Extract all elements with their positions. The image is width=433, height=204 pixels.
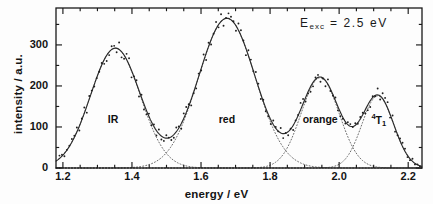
data-point	[404, 148, 406, 150]
data-point	[270, 123, 272, 125]
data-point	[233, 20, 235, 22]
data-point	[205, 59, 207, 61]
data-point	[141, 94, 143, 96]
x-tick-label: 2.0	[319, 170, 359, 182]
data-point	[76, 127, 78, 129]
data-point	[402, 142, 404, 144]
data-point	[126, 53, 128, 55]
data-point	[332, 95, 334, 97]
data-point	[277, 130, 279, 132]
data-point	[195, 87, 197, 89]
data-point	[247, 49, 249, 51]
data-point	[238, 23, 240, 25]
peak-label-4t1: 4T1	[349, 112, 409, 128]
data-point	[369, 106, 371, 108]
data-point	[220, 13, 222, 15]
data-point	[111, 45, 113, 47]
annotation-subscript: exc	[310, 22, 325, 31]
data-point	[260, 98, 262, 100]
data-point	[150, 124, 152, 126]
data-point	[106, 60, 108, 62]
x-tick-label: 1.8	[250, 170, 290, 182]
data-point	[68, 145, 70, 147]
x-tick-label: 2.2	[388, 170, 428, 182]
data-point	[193, 92, 195, 94]
data-point	[116, 51, 118, 53]
data-point	[103, 63, 105, 65]
peak-label-red-text: red	[219, 113, 235, 125]
data-point	[242, 40, 244, 42]
data-point	[121, 56, 123, 58]
data-point	[257, 83, 259, 85]
data-point	[329, 90, 331, 92]
data-point	[170, 139, 172, 141]
data-point	[123, 58, 125, 60]
data-point	[175, 127, 177, 129]
data-point	[262, 99, 264, 101]
x-tick-label: 1.4	[112, 170, 152, 182]
y-tick-label: 0	[8, 161, 48, 173]
data-points-group	[59, 12, 421, 167]
data-point	[88, 95, 90, 97]
data-point	[91, 90, 93, 92]
data-point	[200, 70, 202, 72]
data-point	[225, 17, 227, 19]
data-point	[317, 74, 319, 76]
data-point	[379, 98, 381, 100]
data-point	[337, 109, 339, 111]
data-point	[93, 86, 95, 88]
data-point	[384, 97, 386, 99]
data-point	[322, 77, 324, 79]
data-point	[71, 138, 73, 140]
data-point	[310, 91, 312, 93]
data-point	[282, 137, 284, 139]
data-point	[208, 42, 210, 44]
data-point	[96, 77, 98, 79]
data-point	[407, 156, 409, 158]
data-point	[131, 76, 133, 78]
data-point	[118, 42, 120, 44]
x-axis-title: energy / eV	[0, 188, 433, 200]
data-point	[272, 119, 274, 121]
data-point	[143, 109, 145, 111]
x-tick-label: 1.6	[181, 170, 221, 182]
data-point	[412, 158, 414, 160]
component-curve-1	[56, 18, 422, 168]
data-point	[387, 101, 389, 103]
component-curves-group	[56, 18, 422, 168]
data-point	[63, 155, 65, 157]
data-point	[133, 75, 135, 77]
data-point	[287, 134, 289, 136]
data-point	[185, 106, 187, 108]
data-point	[138, 96, 140, 98]
data-point	[285, 132, 287, 134]
data-point	[215, 21, 217, 23]
data-point	[305, 101, 307, 103]
data-point	[307, 93, 309, 95]
data-point	[136, 79, 138, 81]
data-point	[302, 98, 304, 100]
data-point	[203, 54, 205, 56]
fit-curve	[56, 18, 422, 166]
data-point	[245, 54, 247, 56]
data-point	[178, 126, 180, 128]
data-point	[382, 92, 384, 94]
y-tick-label: 200	[8, 79, 48, 91]
data-point	[377, 87, 379, 89]
data-point	[128, 57, 130, 59]
data-point	[327, 78, 329, 80]
data-point	[213, 33, 215, 35]
data-point	[280, 127, 282, 129]
data-point	[300, 102, 302, 104]
annotation-value: = 2.5 eV	[325, 16, 388, 30]
data-point	[73, 135, 75, 137]
data-point	[372, 95, 374, 97]
data-point	[98, 71, 100, 73]
data-point	[210, 44, 212, 46]
peak-label-ir-text: IR	[108, 113, 119, 125]
data-point	[168, 137, 170, 139]
data-point	[163, 140, 165, 142]
data-point	[419, 165, 421, 167]
data-point	[325, 85, 327, 87]
data-point	[228, 12, 230, 14]
